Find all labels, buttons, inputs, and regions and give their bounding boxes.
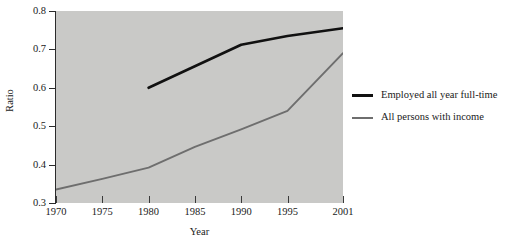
y-tick-mark xyxy=(49,203,55,204)
series-line-employed-all-year-full-time xyxy=(149,28,343,88)
plot-area xyxy=(56,11,343,203)
legend-item: All persons with income xyxy=(352,110,509,132)
legend-item: Employed all year full-time xyxy=(352,88,509,110)
y-axis-line xyxy=(55,11,56,204)
x-tick-label: 1980 xyxy=(129,206,169,217)
chart-figure: 0.30.40.50.60.70.8 197019751980198519901… xyxy=(0,0,509,249)
x-tick-label: 1995 xyxy=(268,206,308,217)
chart-legend: Employed all year full-time All persons … xyxy=(352,88,509,132)
y-tick-label: 0.4 xyxy=(24,160,46,171)
x-axis-title: Year xyxy=(0,226,399,237)
y-tick-label: 0.8 xyxy=(24,6,46,17)
x-tick-mark xyxy=(56,196,57,203)
x-tick-label: 2001 xyxy=(323,206,363,217)
series-line-all-persons-with-income xyxy=(56,53,343,189)
plot-lines-svg xyxy=(56,11,343,203)
y-tick-label: 0.5 xyxy=(24,121,46,132)
legend-swatch-employed-all-year-full-time xyxy=(352,94,373,97)
x-tick-mark xyxy=(195,196,196,203)
x-tick-mark xyxy=(288,196,289,203)
x-tick-label: 1975 xyxy=(82,206,122,217)
y-tick-mark xyxy=(49,49,55,50)
y-tick-mark xyxy=(49,88,55,89)
legend-label: All persons with income xyxy=(381,110,484,124)
y-tick-label: 0.6 xyxy=(24,83,46,94)
y-tick-mark xyxy=(49,165,55,166)
y-tick-label: 0.7 xyxy=(24,44,46,55)
x-tick-label: 1990 xyxy=(221,206,261,217)
x-tick-mark xyxy=(241,196,242,203)
x-tick-mark xyxy=(343,196,344,203)
legend-label: Employed all year full-time xyxy=(381,88,497,102)
x-tick-mark xyxy=(149,196,150,203)
legend-swatch-all-persons-with-income xyxy=(352,117,373,119)
x-tick-label: 1985 xyxy=(175,206,215,217)
x-tick-mark xyxy=(102,196,103,203)
y-axis-title: Ratio xyxy=(4,78,15,124)
y-tick-mark xyxy=(49,11,55,12)
y-tick-mark xyxy=(49,126,55,127)
x-tick-label: 1970 xyxy=(36,206,76,217)
